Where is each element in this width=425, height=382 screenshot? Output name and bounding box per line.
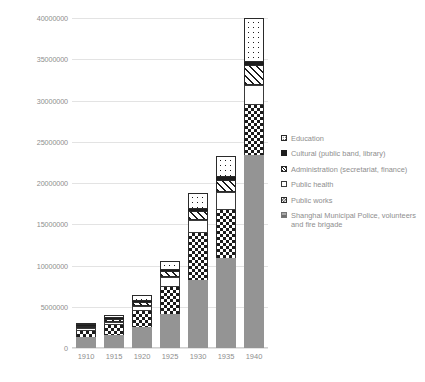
bar-1915	[104, 315, 124, 348]
bar-segment	[132, 327, 152, 348]
bar-segment	[188, 193, 208, 210]
bar-segment	[188, 211, 208, 220]
cultural-swatch	[281, 150, 287, 156]
y-axis-tick-label: 40000000	[4, 14, 68, 23]
bar-segment	[244, 85, 264, 105]
y-axis-tick-label: 20000000	[4, 179, 68, 188]
legend-item[interactable]: Public works	[281, 196, 425, 205]
gridline	[72, 59, 268, 60]
bar-1940	[244, 18, 264, 348]
bar-segment	[188, 280, 208, 348]
bar-segment	[188, 233, 208, 279]
y-axis-tick-label: 15000000	[4, 220, 68, 229]
legend-item-label: Shanghai Municipal Police, volunteers an…	[291, 211, 425, 229]
legend-item-label: Cultural (public band, library)	[291, 149, 425, 158]
y-axis-tick-label: 30000000	[4, 96, 68, 105]
legend-item-label: Public works	[291, 196, 425, 205]
legend-item[interactable]: Shanghai Municipal Police, volunteers an…	[281, 211, 425, 229]
x-axis-tick-label: 1940	[234, 352, 274, 361]
bar-segment	[104, 335, 124, 348]
gridline	[72, 142, 268, 143]
legend-item-label: Administration (secretariat, finance)	[291, 165, 425, 174]
bar-segment	[216, 180, 236, 192]
y-axis-tick-label: 25000000	[4, 137, 68, 146]
bar-segment	[216, 210, 236, 258]
y-axis-tick-label: 5000000	[4, 302, 68, 311]
bar-1920	[132, 295, 152, 348]
bar-segment	[132, 311, 152, 327]
bar-1935	[216, 156, 236, 348]
gridline	[72, 348, 268, 349]
legend-item[interactable]: Administration (secretariat, finance)	[281, 165, 425, 174]
bar-segment	[216, 156, 236, 177]
legend-item[interactable]: Public health	[281, 180, 425, 189]
bar-segment	[216, 258, 236, 348]
gridline	[72, 101, 268, 102]
bar-segment	[104, 325, 124, 335]
police-swatch	[281, 212, 287, 218]
bar-1925	[160, 261, 180, 348]
legend-item-label: Education	[291, 134, 425, 143]
y-axis-tick-label: 0	[4, 344, 68, 353]
y-axis-tick-label: 35000000	[4, 55, 68, 64]
bar-1910	[76, 323, 96, 348]
bar-segment	[76, 337, 96, 348]
bar-segment	[244, 105, 264, 155]
bar-segment	[244, 65, 264, 85]
public-works-swatch	[281, 197, 287, 203]
bar-segment	[244, 155, 264, 348]
administration-swatch	[281, 166, 287, 172]
plot-area	[72, 18, 268, 348]
education-swatch	[281, 135, 287, 141]
bar-1930	[188, 193, 208, 348]
bar-segment	[244, 18, 264, 62]
bar-segment	[160, 261, 180, 269]
legend-item[interactable]: Education	[281, 134, 425, 143]
bar-segment	[188, 220, 208, 233]
public-health-swatch	[281, 181, 287, 187]
bar-segment	[216, 192, 236, 210]
y-axis-tick-label: 10000000	[4, 261, 68, 270]
chart-legend: EducationCultural (public band, library)…	[281, 134, 425, 235]
bar-segment	[160, 314, 180, 348]
gridline	[72, 18, 268, 19]
gridline	[72, 224, 268, 225]
bar-segment	[160, 277, 180, 287]
bar-segment	[160, 287, 180, 314]
legend-item-label: Public health	[291, 180, 425, 189]
legend-item[interactable]: Cultural (public band, library)	[281, 149, 425, 158]
bar-segment	[76, 331, 96, 338]
stacked-bar-chart: 0500000010000000150000002000000025000000…	[0, 0, 425, 382]
gridline	[72, 183, 268, 184]
